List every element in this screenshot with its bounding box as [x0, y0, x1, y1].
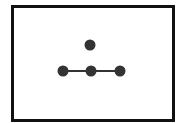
diagram-canvas: [0, 0, 181, 123]
node-center: [86, 66, 97, 77]
node-left: [58, 66, 69, 77]
node-top: [85, 40, 96, 51]
node-right: [115, 66, 126, 77]
